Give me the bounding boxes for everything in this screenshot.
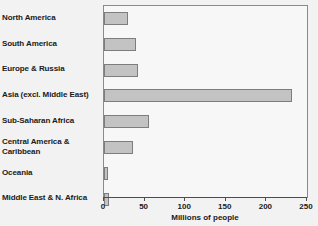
category-label: Sub-Saharan Africa — [2, 116, 101, 126]
x-tick — [265, 197, 266, 201]
category-label: South America — [2, 39, 101, 49]
x-tick — [184, 197, 185, 201]
x-axis-title: Millions of people — [103, 213, 307, 222]
category-label: Central America & Caribbean — [2, 137, 101, 156]
category-axis-labels: North AmericaSouth AmericaEurope & Russi… — [0, 0, 101, 196]
bar — [104, 141, 133, 154]
x-tick-label: 50 — [129, 202, 159, 211]
bar — [104, 38, 136, 51]
x-tick — [306, 197, 307, 201]
plot-area — [103, 5, 308, 198]
bar — [104, 167, 108, 180]
x-tick — [225, 197, 226, 201]
x-tick-label: 100 — [169, 202, 199, 211]
bar — [104, 89, 292, 102]
category-label: North America — [2, 13, 101, 23]
category-label: Asia (excl. Middle East) — [2, 90, 101, 100]
x-tick-label: 250 — [291, 202, 318, 211]
category-label: Europe & Russia — [2, 64, 101, 74]
bar — [104, 12, 128, 25]
category-label: Middle East & N. Africa — [2, 193, 101, 203]
category-label: Oceania — [2, 168, 101, 178]
x-tick-label: 0 — [88, 202, 118, 211]
bar-chart: North AmericaSouth AmericaEurope & Russi… — [0, 0, 318, 226]
x-axis-line — [103, 197, 307, 198]
bar — [104, 115, 149, 128]
x-tick — [103, 197, 104, 201]
bar — [104, 64, 138, 77]
x-tick-label: 200 — [250, 202, 280, 211]
x-tick-label: 150 — [210, 202, 240, 211]
x-tick — [144, 197, 145, 201]
